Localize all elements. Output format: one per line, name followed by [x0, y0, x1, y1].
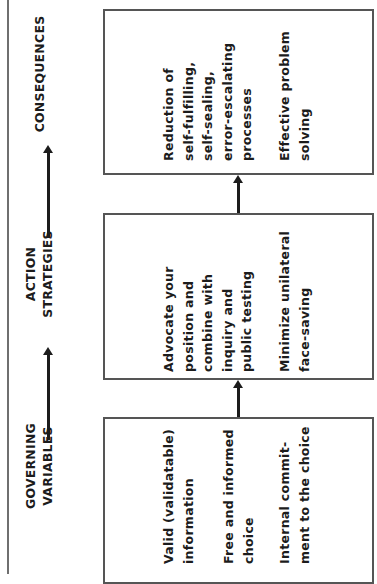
header-label: ACTION STRATEGIES — [23, 230, 55, 317]
action-item-minimize-face-saving: Minimize unilateral face-saving — [275, 231, 314, 372]
consequence-item-reduction: Reduction of self-fulfilling, self-seali… — [159, 43, 257, 161]
arrow-right-icon — [47, 152, 50, 238]
arrow-right-icon — [47, 354, 50, 440]
governing-variables-box: Valid (validatable) information Free and… — [103, 417, 374, 584]
governing-item-internal-commitment: Internal commit- ment to the choice — [275, 426, 314, 564]
header-governing-variables: GOVERNING VARIABLES — [22, 396, 56, 536]
arrow-right-icon — [237, 387, 240, 417]
governing-item-valid-information: Valid (validatable) information — [159, 429, 198, 564]
arrow-right-icon — [237, 182, 240, 213]
consequences-box: Reduction of self-fulfilling, self-seali… — [103, 9, 374, 175]
consequence-item-problem-solving: Effective problem solving — [275, 31, 314, 161]
governing-item-free-choice: Free and informed choice — [219, 429, 258, 564]
header-label: GOVERNING VARIABLES — [23, 423, 55, 509]
action-strategies-box: Advocate your position and combine with … — [103, 213, 374, 380]
top-rule-divider — [7, 0, 9, 574]
header-label: CONSEQUENCES — [32, 16, 47, 133]
header-action-strategies: ACTION STRATEGIES — [22, 224, 56, 324]
action-item-advocate: Advocate your position and combine with … — [159, 266, 257, 372]
header-consequences: CONSEQUENCES — [31, 14, 48, 134]
